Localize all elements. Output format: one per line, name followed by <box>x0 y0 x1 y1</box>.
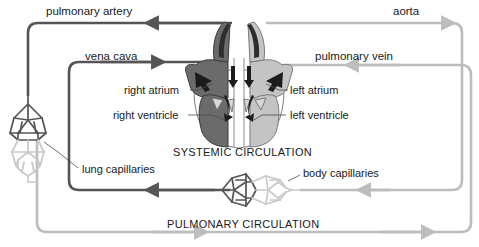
leader-left-ventricle <box>254 115 286 120</box>
leader-right-atrium <box>190 84 212 90</box>
label-pulmonary-circulation: PULMONARY CIRCULATION <box>167 219 319 230</box>
label-pulmonary-vein: pulmonary vein <box>315 51 393 63</box>
leader-left-atrium <box>266 84 288 90</box>
label-vena-cava: vena cava <box>85 51 137 63</box>
label-right-atrium: right atrium <box>124 85 179 96</box>
label-left-atrium: left atrium <box>290 85 338 96</box>
label-lung-capillaries: lung capillaries <box>82 164 155 175</box>
label-pulmonary-artery: pulmonary artery <box>46 6 132 18</box>
label-systemic-circulation: SYSTEMIC CIRCULATION <box>173 147 312 158</box>
label-left-ventricle: left ventricle <box>290 110 349 121</box>
circulation-diagram: pulmonary artery aorta vena cava pulmona… <box>0 0 479 247</box>
leader-right-ventricle <box>188 115 224 120</box>
leader-body-capillaries <box>288 175 300 181</box>
leader-lung-capillaries <box>44 142 78 168</box>
label-body-capillaries: body capillaries <box>303 168 379 179</box>
leader-lines-layer <box>0 0 479 247</box>
label-right-ventricle: right ventricle <box>113 110 178 121</box>
label-aorta: aorta <box>393 6 419 18</box>
